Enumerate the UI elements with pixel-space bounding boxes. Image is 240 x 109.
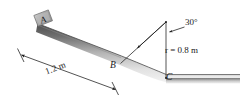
ramp-incline-highlight — [38, 25, 121, 57]
label-point-c: C — [166, 73, 172, 83]
diagram-canvas — [0, 0, 240, 109]
label-point-b: B — [110, 61, 116, 71]
radius-to-b-arrow — [138, 22, 167, 48]
label-angle-30-degrees: 30° — [185, 18, 198, 27]
ramp-surface-solid — [36, 24, 240, 83]
physics-diagram-figure: A B C 30° r = 0.8 m 1.2 m — [0, 0, 240, 109]
dimension-measure-line — [22, 55, 116, 90]
ramp-flat-shadow — [166, 78, 240, 84]
label-radius-value: r = 0.8 m — [165, 46, 198, 55]
angle-leader-line — [170, 27, 185, 32]
ramp-surface-group — [36, 24, 240, 84]
arc-center-point — [165, 21, 167, 23]
angle-leader-group — [170, 27, 185, 32]
